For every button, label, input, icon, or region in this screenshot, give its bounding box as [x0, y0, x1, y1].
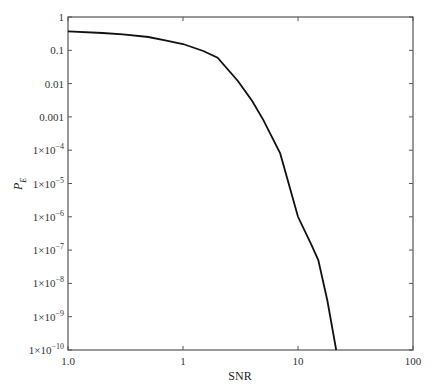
x-tick-label: 10 [293, 355, 305, 367]
plot-frame [68, 17, 413, 350]
y-tick-label: 0.1 [50, 44, 64, 56]
y-tick-label: 1×10−7 [33, 242, 64, 256]
x-axis-ticks: 1.0110100 [61, 17, 422, 367]
y-tick-label: 1×10−5 [33, 176, 64, 190]
x-axis-title: SNR [228, 369, 251, 383]
y-tick-label: 1×10−10 [29, 342, 64, 356]
x-tick-label: 1 [180, 355, 186, 367]
pe-curve [68, 31, 336, 350]
y-tick-label: 0.001 [39, 111, 64, 123]
y-tick-label: 1×10−4 [33, 142, 64, 156]
y-tick-label: 1×10−9 [33, 309, 64, 323]
chart: 1.0110100 10.10.010.0011×10−41×10−51×10−… [0, 0, 435, 392]
y-tick-label: 1×10−6 [33, 209, 64, 223]
y-axis-title-sub: E [19, 178, 28, 184]
y-axis-title: PE [11, 178, 28, 191]
svg-text:PE: PE [11, 178, 28, 191]
y-tick-label: 0.01 [45, 78, 64, 90]
x-tick-label: 100 [405, 355, 422, 367]
y-tick-label: 1×10−8 [33, 275, 64, 289]
y-tick-label: 1 [59, 11, 65, 23]
x-tick-label: 1.0 [61, 355, 75, 367]
